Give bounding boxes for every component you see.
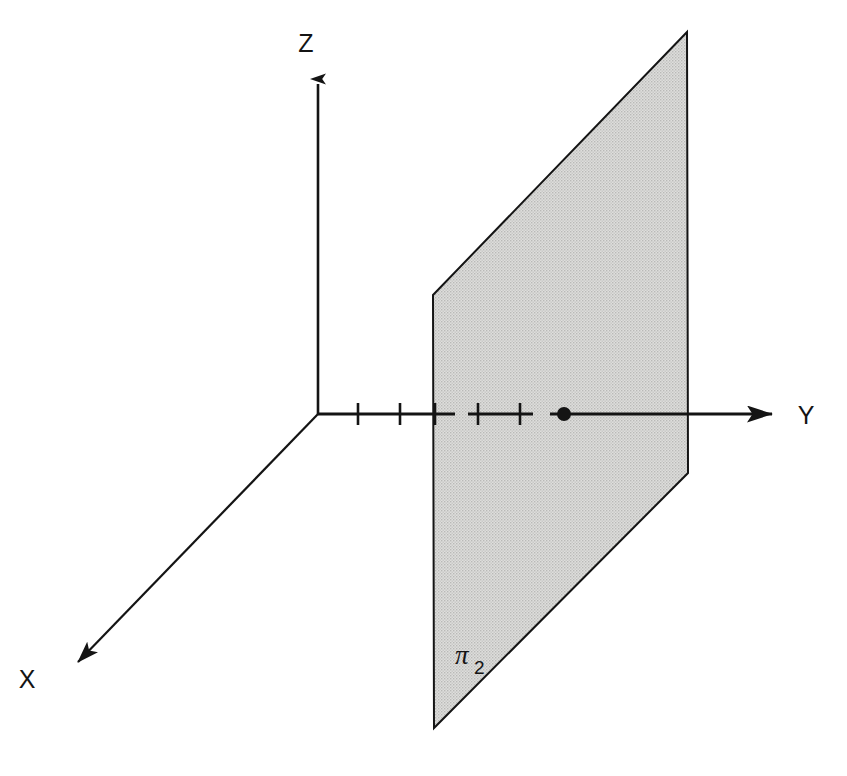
coordinate-system-diagram: X Y Z π 2 bbox=[0, 0, 847, 776]
x-axis-line bbox=[78, 414, 318, 662]
marked-point-dot bbox=[557, 407, 571, 421]
plane-pi2-label-symbol: π bbox=[455, 640, 470, 670]
x-axis-label: X bbox=[19, 665, 36, 693]
x-axis-group bbox=[78, 414, 318, 662]
plane-pi2-group bbox=[433, 32, 688, 728]
z-axis-label: Z bbox=[298, 29, 313, 57]
plane-pi2-label-subscript: 2 bbox=[474, 657, 485, 678]
y-axis-label: Y bbox=[798, 401, 815, 429]
figure-root: X Y Z π 2 bbox=[0, 0, 847, 776]
plane-pi2-surface bbox=[433, 32, 688, 728]
